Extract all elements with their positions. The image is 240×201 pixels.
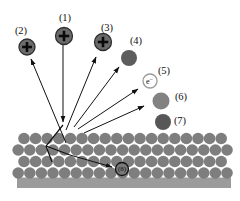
- secondary-electron-5: e−: [143, 74, 157, 88]
- lattice-atom-r4: [163, 167, 175, 179]
- lattice-atom-r4: [12, 167, 24, 179]
- lattice-atom-r1: [123, 133, 135, 145]
- lattice-atom-r2: [152, 144, 164, 156]
- lattice-atom-r1: [204, 133, 216, 145]
- lattice-atom-r4: [36, 167, 48, 179]
- lattice-atom-r2: [140, 144, 152, 156]
- backscattered-ion-2: [19, 39, 35, 55]
- lattice-atom-r4: [152, 167, 164, 179]
- lattice-atom-r4: [59, 167, 71, 179]
- lattice-atom-r3: [169, 156, 181, 168]
- lattice-atom-r2: [94, 144, 106, 156]
- lattice-atom-r4: [221, 167, 233, 179]
- lattice-atom-r1: [30, 133, 42, 145]
- lattice-atom-r2: [221, 144, 233, 156]
- label-6: (6): [175, 91, 188, 103]
- lattice-atom-r3: [157, 156, 169, 168]
- lattice-atom-r4: [82, 167, 94, 179]
- lattice-atom-r2: [210, 144, 222, 156]
- adatom-7: [155, 114, 171, 130]
- lattice-atom-r1: [41, 133, 53, 145]
- lattice-atom-r2: [175, 144, 187, 156]
- lattice-atom-r1: [215, 133, 227, 145]
- lattice-atom-r3: [181, 156, 193, 168]
- lattice-atom-r2: [186, 144, 198, 156]
- label-3: (3): [101, 22, 114, 34]
- sputtered-atom-6: [153, 93, 170, 110]
- lattice-atom-r1: [134, 133, 146, 145]
- lattice-atom-r4: [186, 167, 198, 179]
- label-1: (1): [59, 12, 72, 24]
- lattice-atom-r2: [82, 144, 94, 156]
- label-2: (2): [15, 25, 28, 37]
- lattice-atom-r2: [117, 144, 129, 156]
- adatom-7-body: [155, 114, 171, 130]
- lattice-atom-r1: [181, 133, 193, 145]
- sputtered-atom-6-body: [153, 93, 170, 110]
- lattice-atom-r1: [99, 133, 111, 145]
- lattice-atom-r3: [65, 156, 77, 168]
- sputtered-atom-4: [121, 50, 137, 66]
- lattice-atom-r2: [70, 144, 82, 156]
- interaction-diagram: e−(8)(1)(2)(3)(4)(5)(6)(7): [0, 0, 240, 201]
- lattice-atom-r3: [204, 156, 216, 168]
- diagram-canvas: e−(8)(1)(2)(3)(4)(5)(6)(7): [0, 0, 240, 201]
- lattice-atom-r4: [175, 167, 187, 179]
- arrow-sputtered-4: [74, 67, 119, 127]
- lattice-atom-r2: [163, 144, 175, 156]
- lattice-atom-r4: [94, 167, 106, 179]
- lattice-atom-r4: [210, 167, 222, 179]
- secondary-ion-3: [95, 34, 112, 51]
- lattice-atom-r3: [146, 156, 158, 168]
- lattice-atom-r3: [30, 156, 42, 168]
- lattice-atom-r2: [12, 144, 24, 156]
- lattice-atom-r4: [198, 167, 210, 179]
- lattice-atom-r1: [76, 133, 88, 145]
- lattice-atom-r2: [24, 144, 36, 156]
- label-4: (4): [130, 35, 143, 47]
- lattice-atom-r4: [24, 167, 36, 179]
- lattice-atom-r2: [128, 144, 140, 156]
- lattice-atom-r4: [140, 167, 152, 179]
- lattice-atom-r2: [105, 144, 117, 156]
- lattice-atom-r4: [70, 167, 82, 179]
- lattice-atom-r1: [157, 133, 169, 145]
- lattice-atom-r3: [192, 156, 204, 168]
- lattice-atom-r3: [134, 156, 146, 168]
- lattice-atom-r4: [128, 167, 140, 179]
- sputtered-atom-4-body: [121, 50, 137, 66]
- arrow-backscattered: [31, 59, 66, 143]
- label-5: (5): [158, 65, 171, 77]
- lattice-atom-r1: [192, 133, 204, 145]
- implanted-ion-8: (8): [116, 163, 129, 176]
- lattice-atom-r1: [146, 133, 158, 145]
- lattice-atom-r1: [111, 133, 123, 145]
- incident-ion-1: [56, 28, 73, 45]
- lattice-atom-r3: [215, 156, 227, 168]
- lattice-atom-r1: [169, 133, 181, 145]
- lattice-atom-r1: [88, 133, 100, 145]
- lattice-atom-r3: [18, 156, 30, 168]
- arrow-secondary-ion: [66, 57, 96, 130]
- lattice-atom-r4: [47, 167, 59, 179]
- lattice-atom-r1: [18, 133, 30, 145]
- implanted-ion-8-label: (8): [118, 165, 127, 173]
- lattice-atom-r2: [198, 144, 210, 156]
- substrate-base-band: [17, 178, 231, 189]
- label-7: (7): [174, 115, 187, 127]
- lattice-atom-r3: [53, 156, 65, 168]
